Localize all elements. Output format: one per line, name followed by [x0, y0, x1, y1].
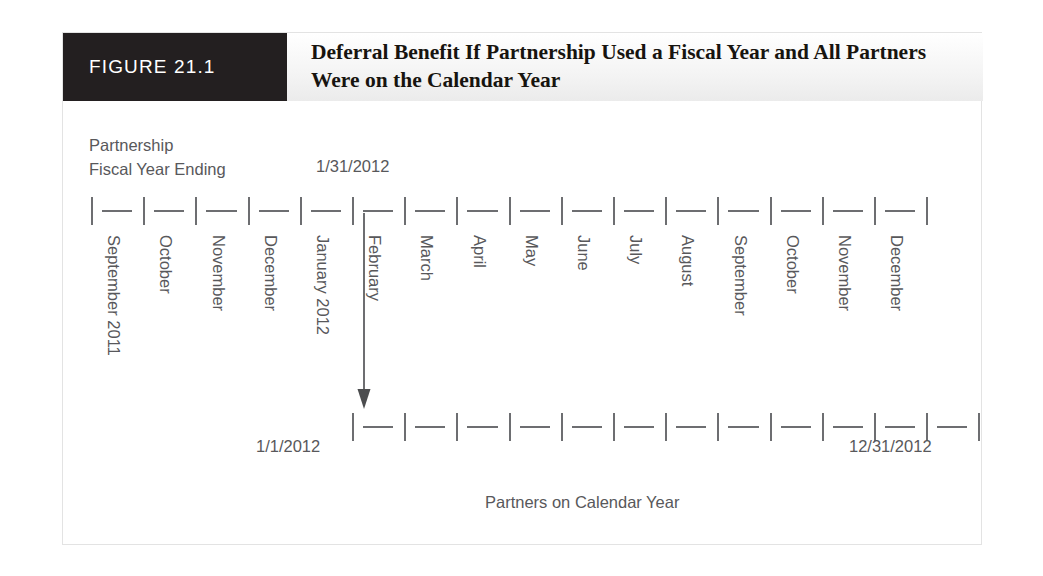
calendar-year-tick — [456, 413, 458, 441]
figure-title: Deferral Benefit If Partnership Used a F… — [311, 39, 971, 94]
fiscal-year-tick — [456, 197, 458, 225]
fiscal-year-tick — [613, 197, 615, 225]
fiscal-year-segment — [102, 210, 132, 212]
calendar-year-tick — [613, 413, 615, 441]
fiscal-year-segment — [624, 210, 654, 212]
calendar-year-segment — [624, 426, 654, 428]
fiscal-year-segment — [572, 210, 602, 212]
fiscal-year-segment — [520, 210, 550, 212]
month-label: December — [261, 235, 280, 311]
calendar-year-end-date: 12/31/2012 — [849, 437, 932, 456]
figure-number-label: FIGURE 21.1 — [89, 56, 216, 78]
month-label: November — [835, 235, 854, 311]
fiscal-year-axis-label-line2: Fiscal Year Ending — [89, 157, 226, 181]
month-label: June — [574, 235, 593, 271]
fiscal-year-segment — [467, 210, 497, 212]
fiscal-year-tick — [561, 197, 563, 225]
month-label: August — [678, 235, 697, 286]
calendar-year-tick — [822, 413, 824, 441]
fiscal-year-segment — [885, 210, 915, 212]
fiscal-year-segment — [259, 210, 289, 212]
calendar-year-segment — [937, 426, 967, 428]
calendar-year-tick — [978, 413, 980, 441]
calendar-year-segment — [572, 426, 602, 428]
fiscal-year-segment — [781, 210, 811, 212]
calendar-year-tick — [509, 413, 511, 441]
fiscal-year-segment — [415, 210, 445, 212]
calendar-year-segment — [833, 426, 863, 428]
calendar-year-segment — [520, 426, 550, 428]
figure-title-area: Deferral Benefit If Partnership Used a F… — [287, 33, 983, 101]
fiscal-year-segment — [833, 210, 863, 212]
fiscal-year-end-date: 1/31/2012 — [316, 157, 389, 176]
fiscal-year-segment — [363, 210, 393, 212]
month-label: November — [209, 235, 228, 311]
calendar-year-segment — [676, 426, 706, 428]
month-label: September — [731, 235, 750, 316]
fiscal-year-segment — [206, 210, 236, 212]
calendar-year-tick — [665, 413, 667, 441]
fiscal-year-tick — [926, 197, 928, 225]
month-label: April — [470, 235, 489, 268]
fiscal-year-tick — [248, 197, 250, 225]
month-label: October — [156, 235, 175, 294]
fiscal-year-segment — [676, 210, 706, 212]
fiscal-year-tick — [404, 197, 406, 225]
figure-container: FIGURE 21.1 Deferral Benefit If Partners… — [62, 32, 982, 545]
fiscal-year-axis-label-line1: Partnership — [89, 133, 226, 157]
month-label: October — [783, 235, 802, 294]
calendar-year-tick — [404, 413, 406, 441]
calendar-year-tick — [352, 413, 354, 441]
calendar-year-tick — [717, 413, 719, 441]
month-label: July — [626, 235, 645, 264]
fiscal-year-tick — [91, 197, 93, 225]
fiscal-year-tick — [717, 197, 719, 225]
calendar-year-segment — [728, 426, 758, 428]
calendar-year-segment — [467, 426, 497, 428]
fiscal-year-segment — [154, 210, 184, 212]
fiscal-year-tick — [300, 197, 302, 225]
calendar-year-segment — [781, 426, 811, 428]
fiscal-year-tick — [143, 197, 145, 225]
deferral-period-arrow — [344, 213, 384, 413]
fiscal-year-tick — [770, 197, 772, 225]
fiscal-year-tick — [665, 197, 667, 225]
figure-body: Partnership Fiscal Year Ending 1/31/2012… — [63, 101, 983, 545]
month-label: September 2011 — [104, 235, 123, 356]
fiscal-year-tick — [509, 197, 511, 225]
calendar-year-tick — [770, 413, 772, 441]
fiscal-year-tick — [822, 197, 824, 225]
calendar-year-segment — [415, 426, 445, 428]
month-label: May — [522, 235, 541, 266]
fiscal-year-tick — [874, 197, 876, 225]
figure-number-badge: FIGURE 21.1 — [63, 33, 287, 101]
fiscal-year-tick — [195, 197, 197, 225]
calendar-year-tick — [561, 413, 563, 441]
month-label: March — [417, 235, 436, 281]
month-label: December — [887, 235, 906, 311]
calendar-year-axis-label: Partners on Calendar Year — [485, 493, 679, 512]
calendar-year-segment — [363, 426, 393, 428]
month-label: January 2012 — [313, 235, 332, 335]
calendar-year-start-date: 1/1/2012 — [256, 437, 320, 456]
fiscal-year-segment — [728, 210, 758, 212]
calendar-year-segment — [885, 426, 915, 428]
fiscal-year-segment — [311, 210, 341, 212]
fiscal-year-axis-label: Partnership Fiscal Year Ending — [89, 133, 226, 182]
figure-header: FIGURE 21.1 Deferral Benefit If Partners… — [63, 33, 983, 101]
